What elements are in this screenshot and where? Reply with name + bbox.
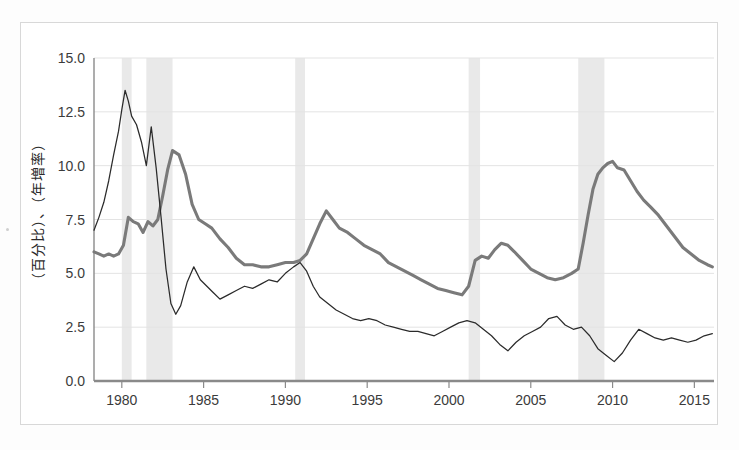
scan-speck [6, 228, 9, 231]
x-tick-label: 1990 [270, 392, 301, 408]
y-tick-label: 12.5 [58, 104, 85, 120]
y-tick-label: 5.0 [66, 265, 86, 281]
x-tick-label: 1980 [106, 392, 137, 408]
y-tick-label: 15.0 [58, 50, 85, 66]
thin-line-series [94, 90, 712, 361]
y-tick-label: 7.5 [66, 212, 86, 228]
x-tick-label: 2005 [515, 392, 546, 408]
line-chart: 0.02.55.07.510.012.515.0 198019851990199… [0, 0, 739, 450]
x-tick-label: 2010 [597, 392, 628, 408]
figure-page: （百分比）、（年増率） 0.02.55.07.510.012.515.0 198… [0, 0, 739, 450]
y-tick-labels: 0.02.55.07.510.012.515.0 [58, 50, 85, 389]
y-tick-label: 2.5 [66, 319, 86, 335]
series-paths [94, 90, 712, 361]
x-tick-label: 2015 [679, 392, 710, 408]
gridlines [94, 58, 714, 381]
x-tick-labels: 19801985199019952000200520102015 [106, 392, 710, 408]
y-tick-label: 10.0 [58, 158, 85, 174]
x-tick-label: 1985 [188, 392, 219, 408]
x-tick-label: 1995 [352, 392, 383, 408]
x-tick-label: 2000 [433, 392, 464, 408]
y-tick-label: 0.0 [66, 373, 86, 389]
